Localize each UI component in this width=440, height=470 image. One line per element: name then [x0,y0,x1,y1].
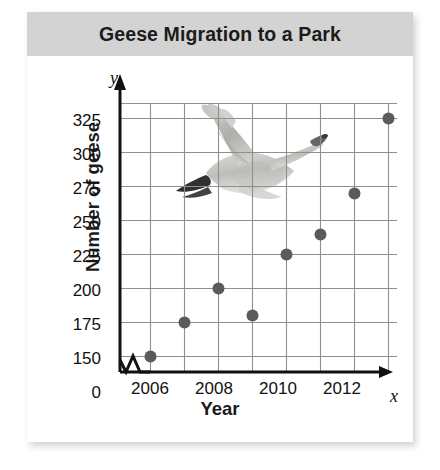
grid-horizontal [120,119,397,357]
data-points [145,113,395,363]
data-point-2009[interactable] [247,310,259,322]
data-point-2008[interactable] [213,283,225,295]
plot-svg [27,56,413,442]
x-axis [120,366,393,378]
page-title: Geese Migration to a Park [99,23,341,46]
chart-card: Geese Migration to a Park Number of gees… [27,12,413,442]
chart-area: Number of geese Year 325 300 275 250 225… [27,56,413,442]
data-point-2012[interactable] [349,188,361,200]
data-point-2006[interactable] [145,351,157,363]
data-point-2011[interactable] [315,229,327,241]
screenshot-root: Geese Migration to a Park Number of gees… [0,0,440,470]
data-point-2010[interactable] [281,249,293,261]
title-banner: Geese Migration to a Park [27,12,413,56]
data-point-2007[interactable] [179,317,191,329]
data-point-2013[interactable] [383,113,395,125]
grid-vertical [151,103,389,372]
